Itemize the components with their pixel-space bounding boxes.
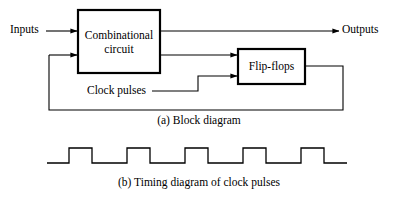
inputs-label: Inputs	[10, 24, 39, 36]
figure-container: Inputs Outputs Clock pulses Combinationa…	[0, 0, 398, 198]
clock-waveform	[47, 148, 347, 163]
caption-block-diagram: (a) Block diagram	[0, 114, 398, 126]
combinational-circuit-label-line2: circuit	[79, 43, 159, 57]
flip-flops-label-line1: Flip-flops	[239, 60, 304, 74]
combinational-circuit-label: Combinational circuit	[79, 29, 159, 56]
outputs-label: Outputs	[342, 24, 378, 36]
clock-pulses-route	[152, 76, 237, 91]
clock-pulses-label: Clock pulses	[87, 85, 146, 97]
flip-flops-label: Flip-flops	[239, 60, 304, 74]
caption-timing-diagram: (b) Timing diagram of clock pulses	[0, 176, 398, 188]
combinational-circuit-label-line1: Combinational	[79, 29, 159, 43]
diagram-svg	[0, 0, 398, 198]
